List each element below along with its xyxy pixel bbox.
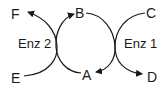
arrow-b-to-a: [86, 13, 115, 72]
node-b: B: [75, 6, 84, 20]
enzyme-1-label: Enz 1: [124, 37, 157, 50]
node-d: D: [147, 70, 157, 84]
node-f: F: [11, 7, 20, 21]
node-c: C: [146, 6, 156, 20]
reaction-diagram: F B C Enz 2 Enz 1 E A D: [0, 0, 165, 90]
node-e: E: [11, 71, 20, 85]
node-a: A: [82, 68, 91, 82]
enzyme-2-label: Enz 2: [18, 37, 51, 50]
arrow-a-to-b: [56, 14, 81, 73]
